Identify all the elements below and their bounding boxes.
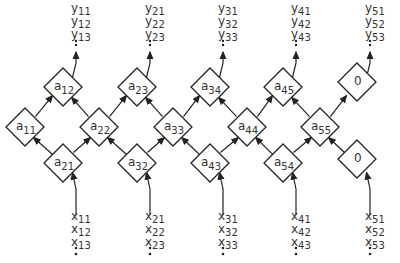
connection-arrow [256,137,273,154]
cell-zero_top: 0 [338,63,376,101]
cell-label: 0 [354,151,362,165]
output-arrow [73,52,77,78]
connection-arrow [147,137,164,152]
connection-arrow [257,96,272,117]
connection-arrow [109,96,126,117]
output-arrow [147,52,151,78]
connection-arrow [146,97,163,116]
connection-arrow [219,97,237,116]
connection-arrow [183,96,199,117]
connection-arrow [73,137,90,152]
connection-arrow [182,137,200,154]
connection-arrow [292,97,310,116]
cell-zero_bottom: 0 [338,140,376,178]
connection-arrow [293,137,311,152]
connection-arrow [330,96,346,117]
connection-arrow [220,137,238,152]
systolic-array-diagram: a12a23a34a450a11a22a33a44a55a21a32a43a54… [0,0,400,263]
cell-a23: a23 [118,68,156,106]
output-arrow [293,52,297,78]
connection-arrow [108,137,127,154]
connection-arrow [72,97,89,116]
connection-arrow [34,137,53,154]
cell-a34: a34 [191,68,229,106]
cell-a12: a12 [44,68,82,106]
cell-label: 0 [354,74,362,88]
connection-arrow [329,137,347,154]
output-arrow [220,52,224,78]
connection-arrow [35,96,52,117]
